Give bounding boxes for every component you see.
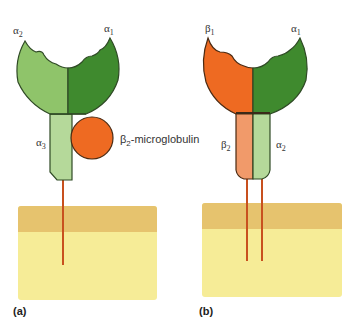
- membrane-b: [202, 203, 342, 297]
- beta1-domain: [203, 38, 253, 114]
- panel-label-a: (a): [13, 305, 27, 317]
- label-alpha3: α3: [36, 136, 46, 151]
- mhc-diagram: α2 α1 α3 β2-microglobulin (a) β1 α1 β2 α…: [0, 0, 355, 332]
- label-alpha2-b: α2: [276, 138, 286, 153]
- alpha1-domain: [68, 38, 119, 114]
- label-alpha2: α2: [13, 24, 23, 39]
- beta2-microglobulin: [71, 117, 113, 159]
- label-beta2: β2: [221, 138, 231, 153]
- membrane-a: [18, 206, 157, 300]
- label-beta2-microglobulin: β2-microglobulin: [120, 133, 199, 148]
- beta2-domain: [236, 112, 253, 179]
- label-alpha1-b: α1: [291, 22, 301, 37]
- alpha2-domain: [17, 41, 68, 114]
- panel-b: β1 α1 β2 α2 (b): [199, 22, 342, 317]
- alpha2-domain-b: [253, 112, 270, 179]
- label-beta1: β1: [205, 22, 215, 37]
- alpha1-domain-b: [253, 38, 307, 114]
- panel-a: α2 α1 α3 β2-microglobulin (a): [13, 22, 199, 317]
- alpha3-domain: [50, 114, 72, 180]
- label-alpha1: α1: [104, 22, 114, 37]
- panel-label-b: (b): [199, 305, 213, 317]
